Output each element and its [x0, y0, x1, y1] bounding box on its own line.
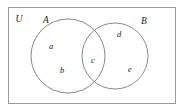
venn-diagram-container: U A B a b c d e: [0, 0, 185, 112]
set-a-label: A: [42, 15, 49, 25]
universal-set-label: U: [16, 14, 24, 24]
element-label-c: c: [91, 55, 95, 65]
set-b-label: B: [141, 16, 147, 26]
element-label-e: e: [128, 64, 132, 74]
element-label-a: a: [49, 41, 53, 51]
venn-diagram-svg: U A B a b c d e: [0, 0, 185, 112]
element-label-b: b: [60, 65, 64, 75]
